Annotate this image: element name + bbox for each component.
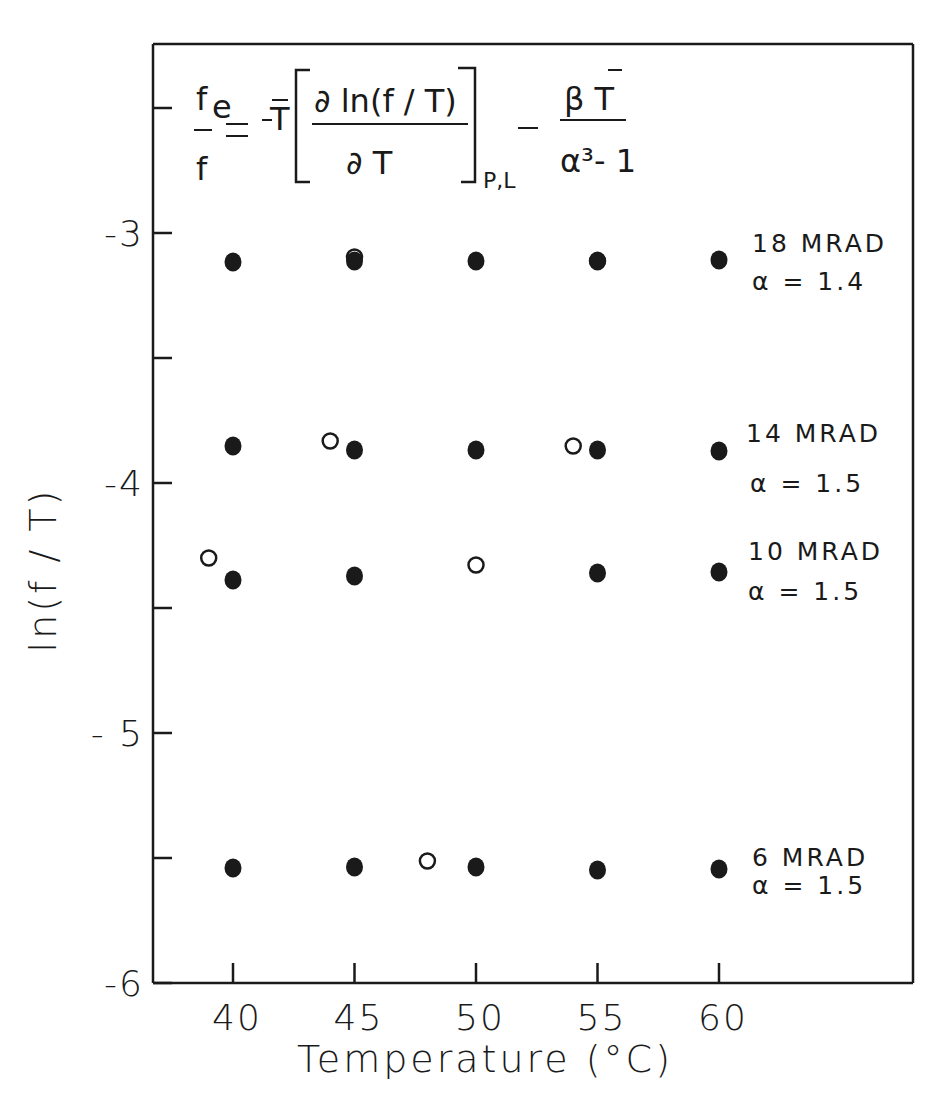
filled-point-10-mrad <box>711 563 728 582</box>
eq-lhs-numerator: f <box>196 80 208 118</box>
eq-lhs-denominator: f <box>196 150 208 188</box>
filled-point-14-mrad <box>711 442 728 461</box>
x-tick-label: 55 <box>577 997 627 1038</box>
y-tick-label: -4 <box>104 463 144 504</box>
open-point-10-mrad <box>201 551 216 566</box>
open-point-14-mrad <box>323 434 338 449</box>
filled-point-10-mrad <box>346 567 363 586</box>
eq-frac2-numerator: β T <box>564 80 615 118</box>
filled-point-14-mrad <box>225 437 242 456</box>
filled-point-6-mrad <box>346 858 363 877</box>
x-tick-label: 45 <box>334 997 384 1038</box>
y-tick-label: - 5 <box>91 713 144 754</box>
scatter-chart: -3-4- 5-6 4045505560 Temperature (°C) ln… <box>0 0 942 1107</box>
open-point-10-mrad <box>469 558 484 573</box>
eq-frac-numerator: ∂ ln(f / T) <box>314 82 457 120</box>
series-label-18-mrad: 18 MRAD <box>752 229 887 258</box>
filled-point-10-mrad <box>225 571 242 590</box>
filled-point-18-mrad <box>468 252 485 271</box>
filled-point-6-mrad <box>711 860 728 879</box>
x-axis-title: Temperature (°C) <box>297 1037 673 1081</box>
filled-point-6-mrad <box>589 861 606 880</box>
data-points <box>201 250 727 880</box>
x-tick-label: 40 <box>212 997 262 1038</box>
eq-frac-denominator: ∂ T <box>346 144 393 182</box>
series-alpha-10-mrad: α = 1.5 <box>748 577 862 606</box>
series-alpha-14-mrad: α = 1.5 <box>750 469 864 498</box>
y-axis-ticks: -3-4- 5-6 <box>91 108 172 1004</box>
filled-point-14-mrad <box>346 441 363 460</box>
series-alpha-18-mrad: α = 1.4 <box>752 267 866 296</box>
filled-point-6-mrad <box>468 858 485 877</box>
filled-point-14-mrad <box>468 441 485 460</box>
open-point-14-mrad <box>566 439 581 454</box>
y-tick-label: -3 <box>104 213 144 254</box>
x-tick-label: 60 <box>698 997 748 1038</box>
open-point-6-mrad <box>420 854 435 869</box>
series-label-10-mrad: 10 MRAD <box>748 537 883 566</box>
filled-point-6-mrad <box>225 859 242 878</box>
series-label-14-mrad: 14 MRAD <box>746 419 881 448</box>
filled-point-18-mrad <box>225 253 242 272</box>
filled-point-14-mrad <box>589 441 606 460</box>
filled-point-18-mrad <box>711 251 728 270</box>
eq-lhs-subscript: e <box>212 88 232 126</box>
eq-subscript: P,L <box>483 168 516 193</box>
series-alpha-6-mrad: α = 1.5 <box>752 871 866 900</box>
y-tick-label: -6 <box>104 963 144 1004</box>
x-tick-label: 50 <box>455 997 505 1038</box>
series-label-6-mrad: 6 MRAD <box>752 843 868 872</box>
y-axis-title: ln(f / T) <box>21 488 65 653</box>
x-axis-ticks: 4045505560 <box>212 963 748 1038</box>
eq-tbar: T <box>269 100 290 138</box>
series-labels: 18 MRAD α = 1.4 14 MRAD α = 1.5 10 MRAD … <box>746 229 887 900</box>
eq-frac2-denominator: α³- 1 <box>560 142 636 180</box>
equation-annotation: f e f T ∂ ln(f / T) ∂ T P,L β T α³- 1 <box>194 68 636 193</box>
filled-point-10-mrad <box>589 564 606 583</box>
